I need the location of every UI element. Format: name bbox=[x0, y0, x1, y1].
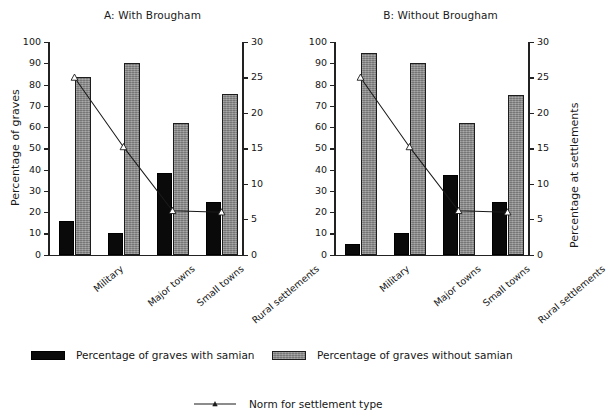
legend-label-norm: Norm for settlement type bbox=[249, 398, 383, 410]
panel-b-x-labels: MilitaryMajor townsSmall townsRural sett… bbox=[292, 0, 583, 330]
chart-panel-b: B: Without Brougham 01020304050607080901… bbox=[292, 0, 583, 330]
x-axis-tick-label: Major towns bbox=[431, 263, 482, 309]
panel-a-x-labels: MilitaryMajor townsSmall townsRural sett… bbox=[0, 0, 291, 330]
x-axis-tick-label: Military bbox=[91, 263, 125, 294]
chart-legend: Percentage of graves with samian Percent… bbox=[0, 330, 583, 409]
legend-swatch-grey-icon bbox=[272, 351, 306, 360]
panels-row: A: With Brougham 0102030405060708090100 … bbox=[0, 0, 583, 330]
legend-item-with-samian: Percentage of graves with samian bbox=[31, 349, 255, 361]
x-axis-tick-label: Military bbox=[377, 263, 411, 294]
legend-label-with-samian: Percentage of graves with samian bbox=[76, 349, 255, 361]
legend-item-without-samian: Percentage of graves without samian bbox=[272, 349, 513, 361]
legend-label-without-samian: Percentage of graves without samian bbox=[317, 349, 513, 361]
legend-swatch-black-icon bbox=[31, 351, 65, 360]
legend-item-norm: Norm for settlement type bbox=[192, 398, 383, 410]
x-axis-tick-label: Small towns bbox=[480, 263, 531, 309]
x-axis-tick-label: Small towns bbox=[194, 263, 245, 309]
legend-swatch-line-marker-icon bbox=[192, 399, 238, 409]
legend-line-icon bbox=[192, 399, 238, 409]
x-axis-tick-label: Rural settlements bbox=[535, 263, 607, 325]
x-axis-tick-label: Major towns bbox=[145, 263, 196, 309]
chart-panel-a: A: With Brougham 0102030405060708090100 … bbox=[0, 0, 291, 330]
